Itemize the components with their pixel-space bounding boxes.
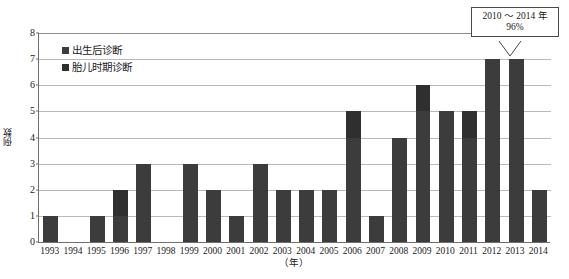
callout-percent-text: 96% [474,22,556,33]
x-axis-tick-label: 2013 [503,245,526,257]
bar-segment-prenatal [113,190,128,216]
y-axis-tick-label: 1 [30,211,35,221]
bar-segment-postnatal [532,190,547,242]
bar-segment-postnatal [276,190,291,242]
bar-segment-postnatal [416,111,431,242]
bar-segment-prenatal [416,85,431,111]
bar-segment-postnatal [299,190,314,242]
bar-1999 [183,164,198,242]
bar-chart-figure: 例数 012345678 199319941995199619971998199… [0,0,569,279]
bar-2005 [322,190,337,242]
y-axis-tick-label: 8 [30,28,35,38]
callout-pointer-icon [498,41,522,57]
bar-2010 [439,111,454,242]
legend-item-prenatal: 胎儿时期诊断 [62,59,212,76]
bar-segment-postnatal [346,138,361,243]
bar-segment-postnatal [113,216,128,242]
x-axis-tick-label: 2010 [434,245,457,257]
x-axis-tick-label: 1998 [154,245,177,257]
x-axis-tick-label: 1999 [178,245,201,257]
bar-2000 [206,190,221,242]
bar-segment-prenatal [346,111,361,137]
bar-2001 [229,216,244,242]
bar-1996 [113,190,128,242]
y-axis-tick-label: 0 [30,237,35,247]
bar-segment-prenatal [462,111,477,137]
legend-swatch-postnatal [62,47,69,54]
bar-segment-postnatal [43,216,58,242]
bar-2011 [462,111,477,242]
x-axis-tick-label: 2002 [247,245,270,257]
bar-2009 [416,85,431,242]
x-axis-tick-label: 2001 [224,245,247,257]
x-axis-tick-label: 2014 [527,245,550,257]
x-axis-tick-label: 1994 [61,245,84,257]
x-axis-tick-label: 2007 [364,245,387,257]
x-axis-tick-label: 2004 [294,245,317,257]
bar-1995 [90,216,105,242]
period-share-callout: 2010 ～ 2014 年 96% [471,7,559,37]
callout-period-text: 2010 ～ 2014 年 [474,11,556,22]
bar-segment-postnatal [485,59,500,242]
bar-segment-postnatal [322,190,337,242]
x-axis-tick-label: 2000 [201,245,224,257]
x-axis-tick-label: 1997 [131,245,154,257]
bar-segment-postnatal [509,59,524,242]
y-axis-tick-label: 5 [30,106,35,116]
legend-item-postnatal: 出生后诊断 [62,42,212,59]
legend-label-postnatal: 出生后诊断 [72,45,122,57]
bar-2013 [509,59,524,242]
bar-segment-postnatal [369,216,384,242]
bar-1997 [136,164,151,242]
legend-label-prenatal: 胎儿时期诊断 [72,62,132,74]
y-axis-title: 例数 [2,128,16,146]
bar-segment-postnatal [90,216,105,242]
legend-swatch-prenatal [62,64,69,71]
bar-2002 [253,164,268,242]
chart-legend: 出生后诊断 胎儿时期诊断 [62,42,212,76]
x-axis-tick-label: 2011 [457,245,480,257]
y-axis-tick-label: 4 [30,133,35,143]
bar-2007 [369,216,384,242]
bar-segment-postnatal [392,138,407,243]
x-axis-tick-label: 2006 [341,245,364,257]
bar-2003 [276,190,291,242]
bar-segment-postnatal [136,164,151,242]
bar-segment-postnatal [183,164,198,242]
x-axis-tick-label: 2008 [387,245,410,257]
bar-segment-postnatal [439,111,454,242]
bar-2014 [532,190,547,242]
y-axis-tick-label: 2 [30,185,35,195]
x-axis-tick-label: 2009 [410,245,433,257]
x-axis-tick-label: 2005 [317,245,340,257]
bar-2006 [346,111,361,242]
x-axis-title: （年） [38,257,550,269]
y-axis-tick-label: 3 [30,159,35,169]
x-axis-tick-label: 2012 [480,245,503,257]
bar-segment-postnatal [206,190,221,242]
y-axis-tick-label: 6 [30,80,35,90]
bar-segment-postnatal [253,164,268,242]
x-axis-tick-label: 2003 [271,245,294,257]
x-axis-tick-label: 1996 [108,245,131,257]
x-axis-tick-label: 1995 [85,245,108,257]
y-axis-tick-label: 7 [30,54,35,64]
bar-segment-postnatal [462,138,477,243]
bar-1993 [43,216,58,242]
bar-2012 [485,59,500,242]
x-axis-tick-label: 1993 [38,245,61,257]
bar-2004 [299,190,314,242]
bar-segment-postnatal [229,216,244,242]
bar-2008 [392,138,407,243]
